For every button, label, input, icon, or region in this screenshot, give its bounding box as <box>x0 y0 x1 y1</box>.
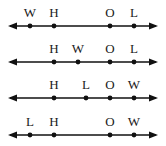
number-line-axis-4 <box>0 127 166 143</box>
point-dot-3-4 <box>132 96 137 101</box>
number-line-figure: W H O L H W O L <box>0 0 166 146</box>
number-line-row-2: H W O L <box>0 40 166 76</box>
point-dot-4-4 <box>132 133 137 138</box>
number-line-axis-3 <box>0 90 166 106</box>
arrowhead-right-icon <box>149 58 158 65</box>
number-line-row-3: H L O W <box>0 76 166 112</box>
arrowhead-left-icon <box>8 94 17 101</box>
point-dot-1-3 <box>108 24 113 29</box>
point-dot-2-1 <box>52 60 57 65</box>
point-dot-4-3 <box>108 133 113 138</box>
point-dot-2-2 <box>76 60 81 65</box>
arrowhead-left-icon <box>8 58 17 65</box>
arrowhead-left-icon <box>8 22 17 29</box>
point-dot-2-4 <box>132 60 137 65</box>
point-dot-1-1 <box>28 24 33 29</box>
arrowhead-left-icon <box>8 131 17 138</box>
point-dot-1-4 <box>132 24 137 29</box>
point-dot-4-1 <box>28 133 33 138</box>
number-line-axis-2 <box>0 54 166 70</box>
number-line-row-1: W H O L <box>0 4 166 40</box>
point-dot-3-3 <box>108 96 113 101</box>
point-dot-3-1 <box>52 96 57 101</box>
point-dot-3-2 <box>84 96 89 101</box>
point-dot-1-2 <box>52 24 57 29</box>
point-dot-4-2 <box>52 133 57 138</box>
number-line-row-4: L H O W <box>0 113 166 146</box>
arrowhead-right-icon <box>149 94 158 101</box>
arrowhead-right-icon <box>149 131 158 138</box>
number-line-axis-1 <box>0 18 166 34</box>
arrowhead-right-icon <box>149 22 158 29</box>
point-dot-2-3 <box>108 60 113 65</box>
